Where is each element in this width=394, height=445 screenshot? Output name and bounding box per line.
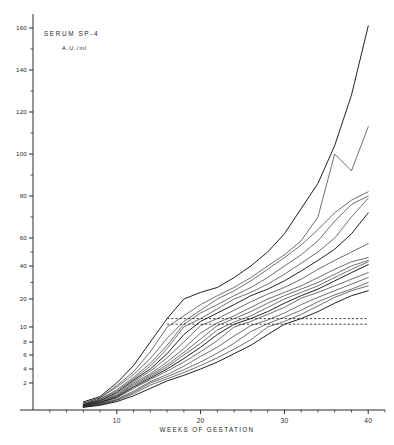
y-axis-tick-label: 8 [23,338,27,345]
x-axis-title: WEEKS OF GESTATION [160,426,255,433]
x-axis-tick-label: 30 [280,417,288,424]
patient-curve [83,192,368,403]
serum-sp4-line-chart: 2468102040608010012014016010203040 SERUM… [0,0,394,445]
chart-title: SERUM SP-4 [44,30,99,37]
y-axis-tick-label: 120 [16,108,27,115]
patient-curve [83,213,368,405]
chart-subtitle: A.U./ml [62,45,87,51]
y-axis-tick-label: 140 [16,66,27,73]
x-axis-tick-label: 20 [197,417,205,424]
y-axis-tick-label: 100 [16,150,27,157]
y-axis-tick-label: 20 [20,295,28,302]
x-axis-tick-label: 10 [113,417,121,424]
patient-curve [83,283,368,407]
x-axis-tick-label: 40 [364,417,372,424]
patient-curve [83,26,368,402]
axis-labels-group: 2468102040608010012014016010203040 [16,24,372,424]
y-axis-tick-label: 80 [20,192,28,199]
y-axis-tick-label: 40 [20,262,28,269]
y-axis-tick-label: 2 [23,379,27,386]
chart-container: 2468102040608010012014016010203040 SERUM… [0,0,394,445]
patient-curve [83,244,368,406]
axes-group [20,14,385,414]
y-axis-tick-label: 60 [20,234,28,241]
y-axis-tick-label: 160 [16,24,27,31]
y-axis-tick-label: 4 [23,365,27,372]
y-axis-tick-label: 6 [23,351,27,358]
y-axis-tick-label: 10 [20,323,28,330]
curves-group [83,26,368,407]
